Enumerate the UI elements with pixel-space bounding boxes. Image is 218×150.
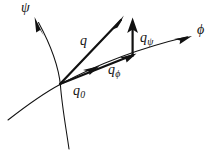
phi-axis-arrowhead-icon xyxy=(174,36,192,44)
q-phi-component-vector xyxy=(60,54,137,84)
phi-coordinate-curve-path xyxy=(8,37,188,120)
psi-axis-arrowhead-icon xyxy=(35,17,44,36)
psi-coordinate-curve-path xyxy=(39,23,70,150)
coordinate-curves xyxy=(8,23,188,150)
q-zero-label: q0 xyxy=(73,84,85,100)
q-phi-label-base: q xyxy=(108,62,115,77)
q-psi-label-base: q xyxy=(140,30,147,45)
vector-decomposition-figure: ψ ϕ q q0 qϕ qψ xyxy=(0,0,218,150)
psi-axis-label: ψ xyxy=(21,1,30,15)
axis-arrowheads xyxy=(35,17,192,44)
q-psi-label: qψ xyxy=(140,31,153,47)
phi-axis-label: ϕ xyxy=(197,23,204,37)
q-phi-label-subscript: ϕ xyxy=(115,68,120,79)
q-psi-component-vector xyxy=(127,18,138,56)
q-vector-label: q xyxy=(80,34,87,48)
q-phi-label: qϕ xyxy=(108,63,120,79)
q-psi-label-subscript: ψ xyxy=(147,36,153,47)
q-zero-label-subscript: 0 xyxy=(80,89,85,100)
q-zero-label-base: q xyxy=(73,83,80,98)
q-phi-shaft xyxy=(60,55,133,84)
q-phi-tip-arrowhead-icon xyxy=(120,54,137,63)
q-vector-arrowhead-icon xyxy=(112,15,124,30)
